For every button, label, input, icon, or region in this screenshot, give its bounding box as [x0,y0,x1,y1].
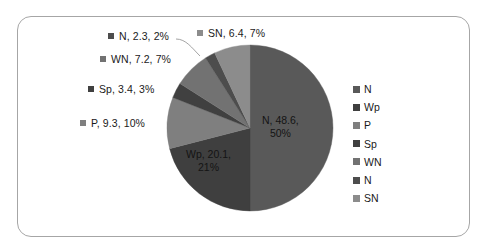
legend-item-wn-4[interactable]: WN [353,153,423,171]
legend-item-label: Wp [364,101,380,113]
label-sp: Sp, 3.4, 3% [88,83,154,95]
label-wn: WN, 7.2, 7% [100,53,171,65]
legend-item-label: P [364,119,371,131]
legend-item-label: N [364,83,372,95]
chart-legend: NWpPSpWNNSN [353,80,423,207]
data-label-line-2: 50% [262,127,299,140]
label-n-large: N, 48.6,50% [262,114,299,140]
data-label-text: N, 2.3, 2% [119,30,169,42]
data-label-marker-icon [197,30,203,36]
legend-swatch-icon [353,86,360,93]
legend-item-sn-6[interactable]: SN [353,189,423,207]
data-label-text: P, 9.3, 10% [91,117,145,129]
legend-item-sp-3[interactable]: Sp [353,135,423,153]
legend-swatch-icon [353,122,360,129]
legend-swatch-icon [353,158,360,165]
label-n-small: N, 2.3, 2% [108,30,169,42]
data-label-text: WN, 7.2, 7% [111,53,171,65]
label-p: P, 9.3, 10% [80,117,145,129]
legend-item-label: Sp [364,138,377,150]
label-sn: SN, 6.4, 7% [197,27,265,39]
legend-item-n-5[interactable]: N [353,171,423,189]
data-label-marker-icon [80,120,86,126]
legend-swatch-icon [353,177,360,184]
data-label-text: Sp, 3.4, 3% [99,83,154,95]
data-label-line-2: 21% [186,161,231,174]
data-label-marker-icon [108,33,114,39]
legend-item-p-2[interactable]: P [353,116,423,134]
legend-swatch-icon [353,195,360,202]
data-label-line-1: Wp, 20.1, [186,148,231,161]
legend-swatch-icon [353,140,360,147]
legend-item-wp-1[interactable]: Wp [353,98,423,116]
legend-item-n-0[interactable]: N [353,80,423,98]
label-wp: Wp, 20.1,21% [186,148,231,174]
data-label-marker-icon [88,86,94,92]
legend-item-label: SN [364,192,379,204]
legend-swatch-icon [353,104,360,111]
data-label-line-1: N, 48.6, [262,114,299,127]
leader-line-n-small [176,39,200,56]
data-label-text: SN, 6.4, 7% [208,27,265,39]
legend-item-label: N [364,174,372,186]
legend-item-label: WN [364,156,382,168]
data-label-marker-icon [100,56,106,62]
